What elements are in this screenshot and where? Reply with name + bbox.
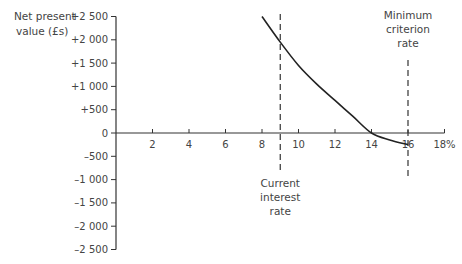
reference-label-line: Minimum (384, 9, 433, 21)
y-tick-label: –2 500 (74, 244, 108, 255)
x-tick-label: 6 (222, 139, 228, 150)
y-tick-label: +500 (81, 104, 108, 115)
npv-curve (262, 17, 408, 145)
reference-lines: CurrentinterestrateMinimumcriterionrate (260, 9, 432, 217)
y-axis-label-line: value (£s) (16, 25, 68, 37)
y-tick-label: +1 000 (71, 81, 108, 92)
y-ticks: +2 500+2 000+1 500+1 000+5000–500–1 000–… (71, 11, 116, 255)
x-tick-label: 12 (329, 139, 342, 150)
y-tick-label: +2 000 (71, 34, 108, 45)
y-tick-label: –2 000 (74, 221, 108, 232)
x-tick-label: 18% (433, 139, 455, 150)
reference-label-line: rate (270, 205, 291, 217)
x-tick-label: 8 (259, 139, 265, 150)
y-tick-label: +1 500 (71, 58, 108, 69)
y-axis-label-line: Net present (14, 10, 76, 22)
y-tick-label: –1 500 (74, 197, 108, 208)
x-tick-label: 2 (149, 139, 155, 150)
npv-chart: Net presentvalue (£s) +2 500+2 000+1 500… (0, 0, 462, 264)
reference-label-line: rate (397, 37, 418, 49)
x-tick-label: 10 (292, 139, 305, 150)
y-tick-label: –500 (84, 151, 108, 162)
y-tick-label: –1 000 (74, 174, 108, 185)
x-tick-label: 14 (365, 139, 378, 150)
reference-label-line: Current (261, 177, 300, 189)
series (262, 17, 408, 145)
x-tick-label: 4 (186, 139, 192, 150)
reference-label-line: criterion (386, 23, 430, 35)
x-ticks: 24681012141618% (149, 129, 455, 150)
y-tick-label: 0 (102, 128, 108, 139)
reference-label-line: interest (260, 191, 300, 203)
y-axis-label: Net presentvalue (£s) (14, 10, 76, 37)
y-tick-label: +2 500 (71, 11, 108, 22)
